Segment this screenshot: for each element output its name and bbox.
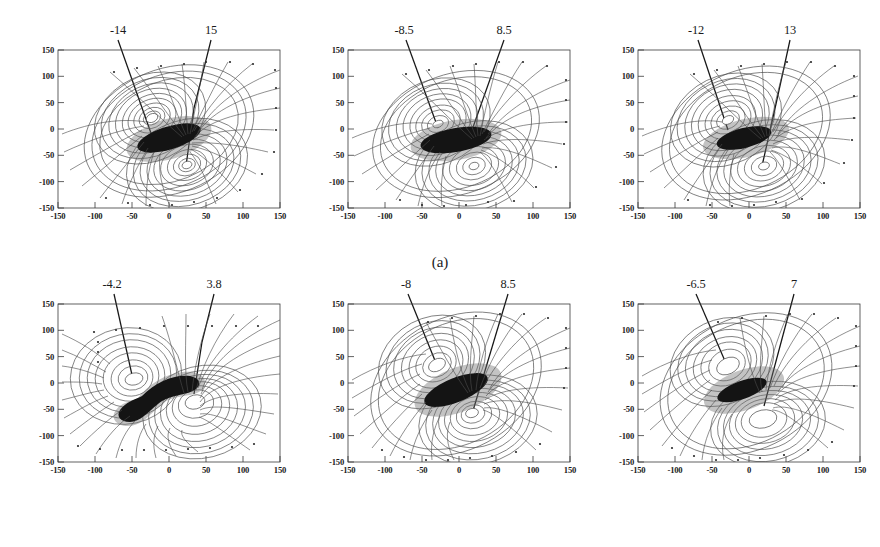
contour-field — [640, 41, 858, 227]
svg-text:-100: -100 — [88, 211, 103, 221]
svg-text:-50: -50 — [417, 211, 428, 221]
contour-field — [352, 48, 570, 225]
svg-text:-100: -100 — [39, 431, 54, 441]
svg-text:-150: -150 — [51, 211, 66, 221]
svg-text:-150: -150 — [631, 465, 646, 475]
positive-peak-label: 13 — [784, 23, 796, 37]
svg-text:0: 0 — [340, 378, 344, 388]
svg-text:0: 0 — [457, 465, 461, 475]
x-axis-tick-labels: -150 -100 -50 0 50 100 150 — [341, 211, 577, 221]
svg-text:100: 100 — [817, 211, 829, 221]
figure-row-a: -14 15 150 10 — [0, 18, 880, 268]
svg-text:100: 100 — [622, 71, 634, 81]
plot-panel-a3: -12 13 150 100 50 0 — [586, 18, 876, 246]
svg-text:0: 0 — [747, 211, 751, 221]
svg-text:-50: -50 — [127, 465, 138, 475]
contour-figure: -14 15 150 10 — [0, 0, 880, 547]
positive-peak-label: 3.8 — [206, 277, 221, 291]
y-axis-tick-labels: 150 100 50 0 -50 -100 -150 — [329, 299, 344, 467]
svg-text:50: 50 — [202, 465, 210, 475]
y-axis-ticks — [58, 50, 64, 208]
svg-text:-100: -100 — [378, 465, 393, 475]
y-axis-ticks — [58, 304, 64, 462]
svg-text:-100: -100 — [619, 177, 634, 187]
svg-text:0: 0 — [50, 124, 54, 134]
svg-text:150: 150 — [564, 465, 576, 475]
svg-text:150: 150 — [332, 299, 344, 309]
svg-text:50: 50 — [782, 465, 790, 475]
svg-text:100: 100 — [237, 465, 249, 475]
svg-text:0: 0 — [747, 465, 751, 475]
x-axis-tick-labels: -150 -100 -50 0 50 100 150 — [631, 211, 867, 221]
svg-text:-50: -50 — [127, 211, 138, 221]
svg-text:150: 150 — [854, 211, 866, 221]
x-axis-tick-labels: -150 -100 -50 0 50 100 150 — [341, 465, 577, 475]
svg-text:50: 50 — [626, 98, 634, 108]
svg-text:-100: -100 — [329, 431, 344, 441]
svg-text:50: 50 — [626, 352, 634, 362]
x-axis-ticks — [58, 202, 280, 208]
svg-text:-50: -50 — [333, 404, 344, 414]
svg-text:-150: -150 — [341, 465, 356, 475]
svg-text:150: 150 — [564, 211, 576, 221]
svg-text:50: 50 — [492, 211, 500, 221]
figure-row-b: -4.2 3.8 150 100 50 — [0, 272, 880, 522]
x-axis-ticks — [348, 202, 570, 208]
y-axis-tick-labels: 150 100 50 0 -50 -100 -150 — [39, 299, 54, 467]
negative-leader-line — [696, 294, 728, 368]
negative-peak-label: -12 — [688, 23, 704, 37]
y-axis-ticks — [348, 304, 354, 462]
svg-text:-50: -50 — [707, 465, 718, 475]
x-axis-ticks — [58, 456, 280, 462]
svg-text:50: 50 — [492, 465, 500, 475]
negative-peak-label: -6.5 — [686, 277, 705, 291]
positive-core — [468, 161, 480, 171]
negative-core — [426, 355, 448, 374]
negative-peak-label: -8.5 — [394, 23, 413, 37]
svg-text:-50: -50 — [623, 404, 634, 414]
svg-text:-100: -100 — [619, 431, 634, 441]
svg-text:0: 0 — [50, 378, 54, 388]
svg-text:150: 150 — [622, 45, 634, 55]
positive-core — [184, 393, 207, 411]
negative-leader-line — [408, 294, 438, 368]
svg-text:100: 100 — [527, 465, 539, 475]
svg-text:150: 150 — [854, 465, 866, 475]
svg-text:150: 150 — [274, 211, 286, 221]
svg-text:-150: -150 — [51, 465, 66, 475]
svg-text:100: 100 — [817, 465, 829, 475]
svg-text:100: 100 — [332, 71, 344, 81]
svg-text:-50: -50 — [43, 150, 54, 160]
svg-text:0: 0 — [167, 465, 171, 475]
svg-text:0: 0 — [167, 211, 171, 221]
contour-field — [346, 283, 570, 484]
negative-leader-line — [118, 40, 152, 136]
y-axis-tick-labels: 150 100 50 0 -50 -100 -150 — [329, 45, 344, 213]
svg-text:50: 50 — [46, 98, 54, 108]
negative-peak-label: -8 — [401, 277, 411, 291]
plot-panel-a2: -8.5 8.5 150 100 50 — [296, 18, 586, 246]
positive-peak-label: 15 — [205, 23, 217, 37]
plot-panel-b2: -8 8.5 150 100 50 0 — [296, 272, 586, 500]
svg-text:50: 50 — [202, 211, 210, 221]
x-axis-tick-labels: -150 -100 -50 0 50 100 150 — [631, 465, 867, 475]
negative-peak-label: -14 — [110, 23, 126, 37]
svg-text:100: 100 — [42, 71, 54, 81]
positive-peak-label: 8.5 — [500, 277, 515, 291]
svg-text:-100: -100 — [329, 177, 344, 187]
positive-core — [747, 407, 778, 430]
svg-text:50: 50 — [46, 352, 54, 362]
plot-panel-a1: -14 15 150 10 — [6, 18, 296, 246]
svg-text:-100: -100 — [88, 465, 103, 475]
y-axis-ticks — [638, 304, 644, 462]
svg-text:100: 100 — [237, 211, 249, 221]
y-axis-tick-labels: 150 100 50 0 -50 -100 -150 — [619, 45, 634, 213]
y-axis-tick-labels: 150 100 50 0 -50 -100 -150 — [619, 299, 634, 467]
positive-peak-label: 7 — [791, 277, 797, 291]
svg-text:-100: -100 — [378, 211, 393, 221]
positive-core — [758, 161, 771, 171]
negative-core — [124, 371, 144, 386]
svg-text:-50: -50 — [43, 404, 54, 414]
svg-text:-50: -50 — [623, 150, 634, 160]
positive-peak-label: 8.5 — [496, 23, 511, 37]
